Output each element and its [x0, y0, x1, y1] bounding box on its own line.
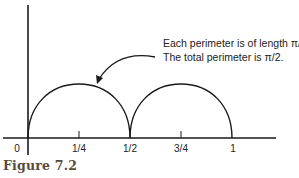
tick-label-0: 0	[14, 143, 20, 154]
arrow-curve	[99, 56, 155, 79]
figure-7-2: Each perimeter is of length π/4. The tot…	[0, 0, 299, 178]
annotation-line-1: Each perimeter is of length π/4.	[163, 37, 299, 50]
annotation-line-2: The total perimeter is π/2.	[163, 51, 283, 64]
diagram-canvas	[0, 0, 299, 178]
tick-label-1: 1	[230, 143, 236, 154]
tick-label-1-2: 1/2	[123, 143, 137, 154]
arrow-head-icon	[96, 75, 103, 84]
figure-caption: Figure 7.2	[3, 158, 77, 173]
arc-right	[130, 84, 232, 138]
tick-label-3-4: 3/4	[174, 143, 188, 154]
tick-label-1-4: 1/4	[72, 143, 86, 154]
arc-left	[28, 84, 130, 138]
